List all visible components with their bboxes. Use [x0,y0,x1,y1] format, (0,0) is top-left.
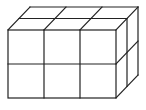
right-face [116,7,138,98]
front-face [8,30,116,98]
top-face [8,7,138,30]
cuboid-diagram [0,0,146,110]
